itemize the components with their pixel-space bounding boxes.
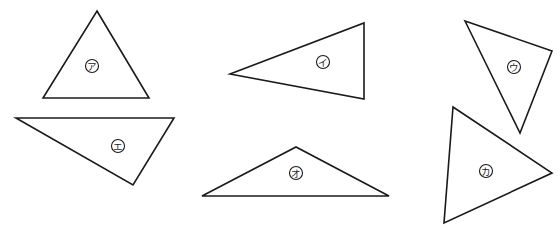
label-i: イ <box>318 57 328 68</box>
label-u: ウ <box>509 62 519 73</box>
label-e: エ <box>113 141 123 152</box>
triangle-i: イ <box>230 23 364 99</box>
triangle-u-shape <box>465 21 552 133</box>
triangle-ka: カ <box>444 107 552 223</box>
triangle-ka-shape <box>444 107 552 223</box>
label-ka: カ <box>481 166 491 177</box>
label-a: ア <box>87 61 97 72</box>
triangle-u: ウ <box>465 21 552 133</box>
triangle-figure: ア イ ウ エ オ カ <box>0 0 560 238</box>
label-o: オ <box>291 168 301 179</box>
triangle-e-shape <box>16 118 174 185</box>
triangle-e: エ <box>16 118 174 185</box>
triangle-a: ア <box>43 11 149 98</box>
triangle-a-shape <box>43 11 149 98</box>
triangle-i-shape <box>230 23 364 99</box>
triangle-o: オ <box>202 147 389 196</box>
